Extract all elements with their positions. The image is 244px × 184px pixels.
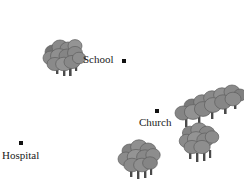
forest-northwest bbox=[40, 36, 88, 80]
tree-canopies bbox=[43, 40, 86, 71]
marker-dot-school[interactable] bbox=[122, 59, 126, 63]
place-label-church: Church bbox=[139, 117, 171, 128]
tree-canopies bbox=[179, 123, 219, 154]
place-label-hospital: Hospital bbox=[2, 150, 39, 161]
marker-dot-church[interactable] bbox=[155, 109, 159, 113]
place-label-school: School bbox=[83, 54, 114, 65]
forest-southeast bbox=[178, 120, 226, 166]
tree-canopies bbox=[118, 140, 160, 172]
forest-south bbox=[116, 136, 172, 184]
marker-dot-hospital[interactable] bbox=[19, 141, 23, 145]
map-canvas: School Church Hospital bbox=[0, 0, 244, 184]
tree-canopies bbox=[175, 85, 244, 120]
